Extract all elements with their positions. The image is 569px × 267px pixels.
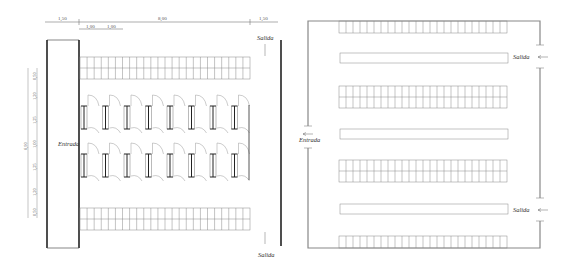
swing-arc-icon (196, 95, 207, 106)
parking-grid-top (80, 57, 250, 79)
row-divider-island (340, 129, 508, 139)
dim-left-margin: 1,50 (58, 16, 67, 22)
stall-unit (232, 95, 250, 133)
swing-arc-icon (110, 143, 121, 154)
swing-arc-icon (196, 128, 207, 133)
row-divider-island (340, 53, 508, 63)
entrance-label: Entrada (57, 140, 79, 147)
vertical-dimension-labels: 0,50 1,20 1,25 1,00 1,25 1,20 0,50 6,90 (23, 71, 38, 216)
swing-arc-icon (196, 143, 207, 154)
swing-arc-icon (174, 128, 185, 133)
swing-arc-icon (110, 95, 121, 106)
swing-arc-icon (153, 176, 164, 181)
swing-arc-icon (239, 95, 250, 106)
swing-arc-icon (174, 143, 185, 154)
exit-top-label: Salida (257, 34, 274, 41)
swing-arc-icon (217, 128, 228, 133)
swing-arc-icon (153, 95, 164, 106)
swing-arc-icon (110, 176, 121, 181)
swing-arc-icon (217, 143, 228, 154)
swing-arc-icon (196, 176, 207, 181)
entrance-label-right: Entrada (298, 136, 320, 143)
stall-unit (167, 95, 185, 133)
stall-unit (103, 95, 121, 133)
swing-arc-icon (88, 95, 99, 106)
row-divider-island (340, 204, 508, 214)
parking-grid-bottom (80, 208, 250, 230)
parking-rows (339, 21, 508, 248)
swing-arc-icon (239, 176, 250, 181)
swing-arc-icon (131, 128, 142, 133)
swing-arc-icon (153, 128, 164, 133)
swing-arc-icon (88, 143, 99, 154)
stall-unit (189, 95, 207, 133)
left-plan: 1,50 8,00 1,50 1,00 1,00 0,50 1,20 1,25 … (23, 16, 281, 258)
dim-right-margin: 1,50 (259, 16, 268, 22)
stall-unit (210, 95, 228, 133)
exit-upper-label: Salida (513, 53, 530, 60)
stall-unit (81, 143, 99, 181)
angled-stall-rows (81, 95, 250, 181)
swing-arc-icon (110, 128, 121, 133)
swing-arc-icon (217, 95, 228, 106)
swing-arc-icon (131, 176, 142, 181)
dim-main-width: 8,00 (158, 16, 167, 22)
swing-arc-icon (174, 95, 185, 106)
swing-arc-icon (217, 176, 228, 181)
stall-unit (146, 95, 164, 133)
stall-unit (189, 143, 207, 181)
stall-unit (210, 143, 228, 181)
right-plan: Salida Salida Entrada (298, 21, 548, 248)
swing-arc-icon (131, 143, 142, 154)
swing-arc-icon (239, 128, 250, 133)
stall-unit (167, 143, 185, 181)
swing-arc-icon (88, 176, 99, 181)
exit-lower-label: Salida (513, 206, 530, 213)
stall-unit (124, 143, 142, 181)
exit-bottom-label: Salida (258, 251, 275, 258)
swing-arc-icon (88, 128, 99, 133)
stall-unit (81, 95, 99, 133)
stall-unit (232, 143, 250, 181)
drawing-canvas: 1,50 8,00 1,50 1,00 1,00 0,50 1,20 1,25 … (0, 0, 569, 267)
swing-arc-icon (239, 143, 250, 154)
stall-unit (124, 95, 142, 133)
swing-arc-icon (153, 143, 164, 154)
stall-unit (103, 143, 121, 181)
swing-arc-icon (131, 95, 142, 106)
stall-unit (146, 143, 164, 181)
swing-arc-icon (174, 176, 185, 181)
